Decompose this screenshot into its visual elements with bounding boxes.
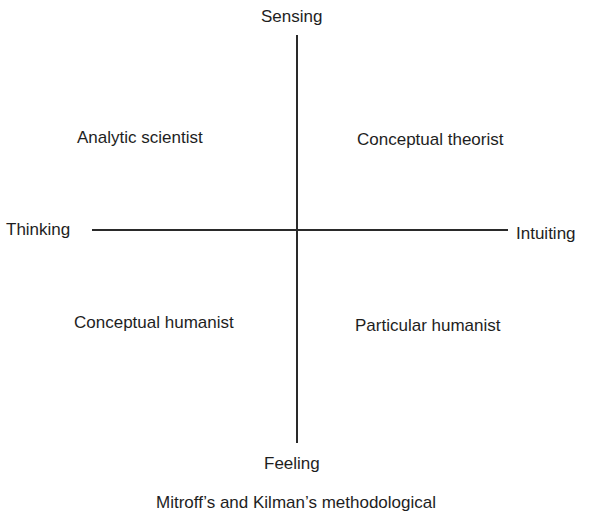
axis-label-right: Intuiting	[516, 225, 576, 242]
vertical-axis-line	[296, 35, 298, 443]
quadrant-label-bottom-left: Conceptual humanist	[74, 314, 234, 331]
quadrant-label-top-left: Analytic scientist	[77, 129, 203, 146]
figure-caption: Mitroff’s and Kilman’s methodological	[0, 493, 592, 513]
quadrant-label-bottom-right: Particular humanist	[355, 317, 501, 334]
quadrant-label-top-right: Conceptual theorist	[357, 131, 503, 148]
axis-label-top: Sensing	[261, 8, 322, 25]
axis-label-bottom: Feeling	[264, 455, 320, 472]
axis-label-left: Thinking	[6, 221, 70, 238]
horizontal-axis-line	[92, 229, 508, 231]
